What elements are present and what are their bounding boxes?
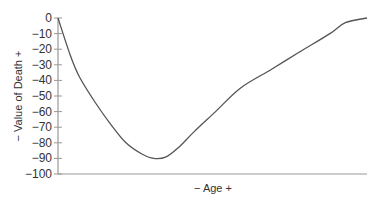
value-of-death-curve xyxy=(58,18,367,159)
line-chart: 0−10−20−30−40−50−60−70−80−90−100 − Age +… xyxy=(0,0,383,201)
y-tick-label: −30 xyxy=(32,58,53,72)
y-tick-label: −60 xyxy=(32,105,53,119)
y-tick-label: −70 xyxy=(32,120,53,134)
y-tick-label: −80 xyxy=(32,136,53,150)
series-value-of-death xyxy=(58,18,367,159)
y-tick-label: 0 xyxy=(45,11,52,25)
y-tick-label: −50 xyxy=(32,89,53,103)
y-tick-label: −100 xyxy=(25,167,52,181)
x-axis-title: − Age + xyxy=(194,182,232,194)
y-tick-label: −90 xyxy=(32,151,53,165)
y-tick-label: −40 xyxy=(32,73,53,87)
y-tick-label: −10 xyxy=(32,27,53,41)
y-tick-label: −20 xyxy=(32,42,53,56)
y-axis-title: − Value of Death + xyxy=(12,51,24,142)
y-axis: 0−10−20−30−40−50−60−70−80−90−100 xyxy=(25,11,62,181)
